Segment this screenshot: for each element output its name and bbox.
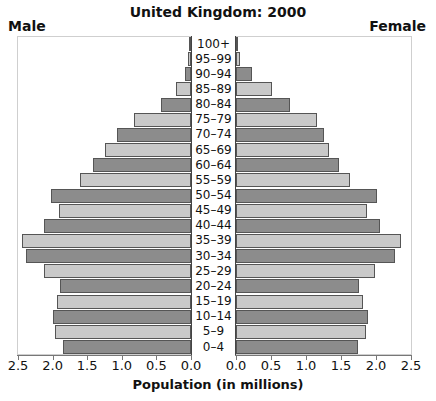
female-x-axis xyxy=(235,355,412,356)
age-group-label: 95–99 xyxy=(192,52,235,67)
female-bar xyxy=(236,37,238,51)
x-tick-label: 2.0 xyxy=(361,358,391,373)
male-bar xyxy=(57,295,191,309)
male-bar xyxy=(105,143,191,157)
male-bar xyxy=(134,113,191,127)
male-bar xyxy=(59,204,191,218)
female-bar xyxy=(236,67,252,81)
female-bar xyxy=(236,52,240,66)
male-bar xyxy=(44,219,191,233)
female-bar xyxy=(236,219,380,233)
male-bar xyxy=(55,325,191,339)
age-group-label: 65–69 xyxy=(192,143,235,158)
age-group-label: 80–84 xyxy=(192,97,235,112)
age-group-label: 70–74 xyxy=(192,127,235,142)
age-group-label: 90–94 xyxy=(192,67,235,82)
male-bar xyxy=(80,173,191,187)
male-bar xyxy=(117,128,191,142)
age-group-label: 30–34 xyxy=(192,249,235,264)
age-group-label: 35–39 xyxy=(192,233,235,248)
male-bar xyxy=(26,249,191,263)
x-axis-label: Population (in millions) xyxy=(0,377,436,392)
male-x-axis xyxy=(17,355,192,356)
female-bar xyxy=(236,158,339,172)
female-bar xyxy=(236,310,368,324)
female-bar xyxy=(236,264,375,278)
age-group-label: 60–64 xyxy=(192,158,235,173)
x-tick-label: 0.0 xyxy=(221,358,251,373)
x-tick-label: 2.5 xyxy=(3,358,33,373)
age-group-label: 15–19 xyxy=(192,294,235,309)
x-tick-label: 1.0 xyxy=(291,358,321,373)
male-bar xyxy=(22,234,191,248)
age-group-label: 85–89 xyxy=(192,82,235,97)
male-label: Male xyxy=(8,18,46,34)
female-bar xyxy=(236,98,290,112)
x-tick-label: 1.5 xyxy=(72,358,102,373)
male-bar xyxy=(161,98,191,112)
male-bar xyxy=(51,189,191,203)
female-bar xyxy=(236,113,317,127)
female-bar xyxy=(236,295,363,309)
male-bar xyxy=(53,310,191,324)
male-bar xyxy=(60,279,191,293)
x-tick-label: 0.5 xyxy=(256,358,286,373)
male-bar xyxy=(93,158,191,172)
female-bar xyxy=(236,189,377,203)
age-group-label: 5–9 xyxy=(192,324,235,339)
female-bar xyxy=(236,82,272,96)
x-tick-label: 0.5 xyxy=(141,358,171,373)
male-bar xyxy=(44,264,191,278)
age-group-label: 55–59 xyxy=(192,173,235,188)
male-axis-line xyxy=(191,36,192,356)
female-axis-line xyxy=(235,36,236,356)
female-bar xyxy=(236,173,350,187)
age-group-label: 0–4 xyxy=(192,340,235,355)
x-tick-label: 1.5 xyxy=(326,358,356,373)
x-tick-label: 0.0 xyxy=(176,358,206,373)
female-bar xyxy=(236,234,401,248)
female-bar xyxy=(236,249,395,263)
female-bar xyxy=(236,340,358,354)
x-tick-label: 1.0 xyxy=(107,358,137,373)
female-bar xyxy=(236,128,324,142)
male-bar xyxy=(176,82,191,96)
age-group-label: 10–14 xyxy=(192,309,235,324)
age-group-label: 40–44 xyxy=(192,218,235,233)
age-group-label: 50–54 xyxy=(192,188,235,203)
female-bar xyxy=(236,279,359,293)
x-tick-label: 2.0 xyxy=(38,358,68,373)
female-bar xyxy=(236,204,367,218)
age-group-label: 25–29 xyxy=(192,264,235,279)
male-bar xyxy=(63,340,191,354)
age-group-label: 20–24 xyxy=(192,279,235,294)
female-label: Female xyxy=(369,18,426,34)
age-group-label: 45–49 xyxy=(192,203,235,218)
x-tick-label: 2.5 xyxy=(396,358,426,373)
age-group-label: 100+ xyxy=(192,37,235,52)
age-group-label: 75–79 xyxy=(192,112,235,127)
female-bar xyxy=(236,325,366,339)
female-bar xyxy=(236,143,329,157)
